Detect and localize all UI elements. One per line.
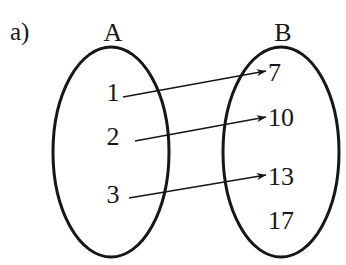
set-a-element: 1 — [107, 80, 120, 106]
function-diagram-figure: a) A B 1 2 3 7 10 13 17 — [0, 0, 346, 265]
set-a-element: 2 — [107, 124, 120, 150]
mapping-arrow-2-to-10 — [135, 117, 266, 141]
set-b-element: 10 — [268, 105, 294, 131]
mapping-arrows — [123, 71, 266, 198]
mapping-arrow-3-to-13 — [129, 175, 266, 198]
set-label-b: B — [274, 20, 291, 46]
set-b-element: 13 — [268, 164, 294, 190]
mapping-arrow-1-to-7 — [123, 71, 266, 97]
set-b-element: 17 — [268, 208, 294, 234]
diagram-canvas — [0, 0, 346, 265]
set-label-a: A — [104, 20, 123, 46]
part-label: a) — [10, 19, 29, 44]
set-b-element: 7 — [268, 60, 281, 86]
set-a-element: 3 — [107, 182, 120, 208]
